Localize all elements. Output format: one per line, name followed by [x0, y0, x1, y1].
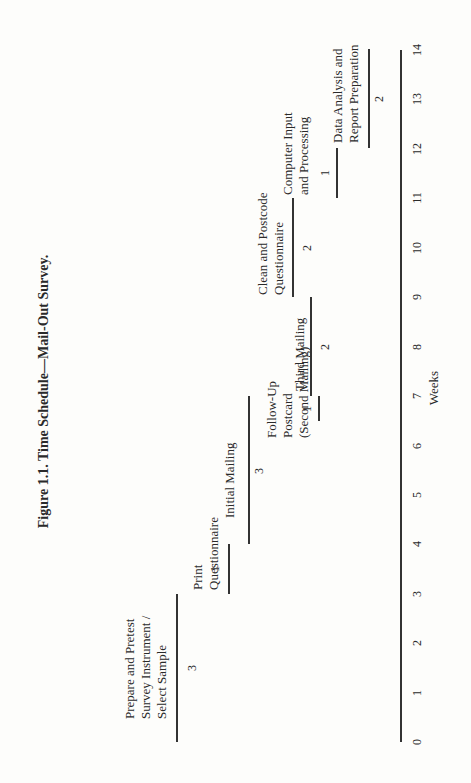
- tick-label: 14: [410, 44, 425, 56]
- task-label-line: Survey Instrument /: [138, 616, 154, 719]
- task-label-line: Print: [190, 517, 206, 590]
- task-duration: 3: [185, 665, 200, 671]
- task-duration: 1: [318, 170, 333, 176]
- task-bar: [310, 297, 312, 396]
- tick-label: 2: [410, 640, 425, 646]
- task-label-line: Report Preparation: [346, 44, 362, 143]
- tick-label: 13: [410, 93, 425, 105]
- task-label-line: Questionnaire: [206, 517, 222, 590]
- chart-title: Figure 1.1. Time Schedule—Mail-Out Surve…: [36, 0, 52, 783]
- task-duration: 3: [252, 468, 267, 474]
- task-label-line: Computer Input: [280, 112, 296, 195]
- x-axis: [400, 50, 402, 742]
- task-bar: [292, 198, 294, 297]
- tick-label: 5: [410, 492, 425, 498]
- tick-label: 6: [410, 443, 425, 449]
- task-bar: [318, 396, 320, 421]
- task-duration: 1: [208, 566, 223, 572]
- tick-label: 9: [410, 294, 425, 300]
- task-bar: [228, 544, 230, 594]
- task-duration: 1: [300, 406, 315, 412]
- task-duration: 2: [318, 344, 333, 350]
- tick-label: 11: [410, 192, 425, 204]
- x-axis-label: Weeks: [426, 371, 442, 405]
- task-label-line: Follow-Up: [264, 347, 280, 438]
- task-label-line: Select Sample: [154, 616, 170, 719]
- tick-label: 8: [410, 344, 425, 350]
- tick-label: 12: [410, 143, 425, 155]
- task-label-line: Third Mailing: [292, 318, 308, 391]
- tick-label: 7: [410, 393, 425, 399]
- tick-label: 3: [410, 591, 425, 597]
- tick-label: 10: [410, 242, 425, 254]
- tick-label: 4: [410, 541, 425, 547]
- task-label-line: Clean and Postcode: [255, 192, 271, 295]
- task-label-line: Questionnaire: [271, 192, 287, 295]
- task-bar: [176, 594, 178, 742]
- task-label-line: Prepare and Pretest: [122, 616, 138, 719]
- task-label-line: Initial Mailing: [222, 443, 238, 518]
- tick-label: 1: [410, 690, 425, 696]
- task-bar: [248, 396, 250, 544]
- task-bar: [336, 148, 338, 198]
- gantt-chart: Figure 1.1. Time Schedule—Mail-Out Surve…: [0, 0, 471, 783]
- task-duration: 2: [300, 245, 315, 251]
- task-bar: [368, 49, 370, 148]
- task-duration: 2: [372, 96, 387, 102]
- tick-label: 0: [410, 739, 425, 745]
- task-label-line: and Processing: [296, 112, 312, 195]
- task-label-line: Data Analysis and: [330, 44, 346, 143]
